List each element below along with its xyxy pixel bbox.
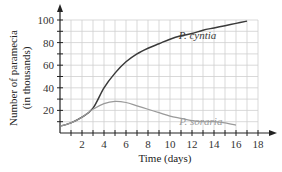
series-label-p-cyntia: P. cyntia — [178, 29, 217, 41]
x-tick-label: 18 — [253, 138, 265, 150]
series-label-p-soraria: P. soraria — [178, 115, 223, 127]
y-axis-label-line2: (in thousands) — [20, 46, 33, 109]
y-tick-label: 80 — [43, 37, 55, 49]
y-tick-label: 60 — [43, 59, 55, 71]
y-axis-label-line1: Number of paramecia — [7, 30, 19, 126]
x-tick-label: 16 — [231, 138, 243, 150]
y-tick-label: 100 — [38, 14, 55, 26]
x-tick-label: 2 — [79, 138, 85, 150]
x-tick-label: 4 — [101, 138, 107, 150]
y-tick-label: 20 — [43, 104, 55, 116]
population-chart: 2468101214161820406080100 Time (days) Nu… — [0, 0, 282, 172]
y-tick-label: 40 — [43, 82, 55, 94]
axis-ticks: 2468101214161820406080100 — [38, 14, 265, 150]
axes — [57, 4, 277, 136]
x-tick-label: 12 — [187, 138, 198, 150]
y-axis-arrow-icon — [57, 4, 63, 12]
series-annotations: P. cyntiaP. soraria — [178, 29, 223, 127]
x-tick-label: 6 — [123, 138, 129, 150]
x-tick-label: 10 — [165, 138, 177, 150]
x-tick-label: 14 — [209, 138, 221, 150]
x-tick-label: 8 — [145, 138, 151, 150]
x-axis-label: Time (days) — [138, 152, 191, 165]
x-axis-arrow-icon — [269, 130, 277, 136]
grid-lines — [60, 20, 258, 133]
